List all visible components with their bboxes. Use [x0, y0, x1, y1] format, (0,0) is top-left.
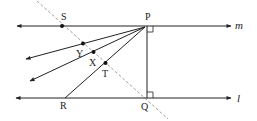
label-x: X	[89, 57, 97, 68]
point-t	[104, 61, 108, 65]
label-s: S	[61, 11, 67, 22]
label-y: Y	[76, 48, 83, 59]
label-t: T	[102, 68, 108, 79]
ray-px	[30, 27, 145, 81]
label-l: l	[237, 92, 240, 104]
right-angle-mark-q	[147, 92, 153, 98]
geometry-diagram: S P Y X T R Q m l	[0, 0, 257, 121]
right-angle-mark-p	[147, 26, 153, 32]
point-s	[60, 24, 64, 28]
label-r: R	[60, 100, 67, 111]
point-y	[81, 42, 85, 46]
label-q: Q	[141, 101, 149, 112]
label-m: m	[235, 19, 243, 31]
point-x	[92, 50, 96, 54]
label-p: P	[145, 11, 151, 22]
